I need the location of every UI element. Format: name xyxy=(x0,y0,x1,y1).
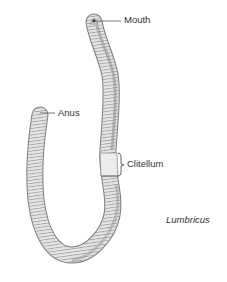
anus-label: Anus xyxy=(58,108,80,118)
clitellum-band xyxy=(100,153,118,176)
clitellum-brace xyxy=(118,153,124,176)
clitellum-label: Clitellum xyxy=(127,159,163,169)
worm-body xyxy=(35,18,118,260)
mouth-label: Mouth xyxy=(124,15,150,25)
species-label: Lumbricus xyxy=(166,215,210,225)
mouth-dot xyxy=(92,19,95,22)
earthworm-illustration xyxy=(0,0,227,282)
earthworm-diagram: Mouth Anus Clitellum Lumbricus xyxy=(0,0,227,282)
